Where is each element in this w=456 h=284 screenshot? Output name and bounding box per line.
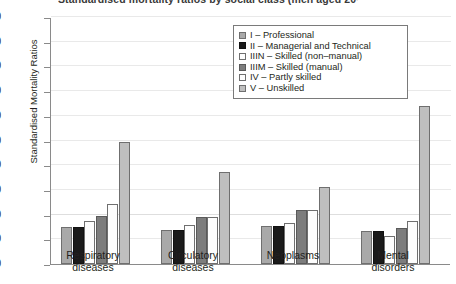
y-tick-label: 450 <box>0 36 1 47</box>
legend-swatch-icon <box>239 74 246 81</box>
legend-swatch-icon <box>239 85 246 92</box>
legend-swatch-icon <box>239 32 246 39</box>
legend-swatch-icon <box>239 42 246 49</box>
y-tick-label: 50 <box>0 233 1 244</box>
legend-item[interactable]: I – Professional <box>239 30 402 41</box>
y-tick-label: 150 <box>0 184 1 195</box>
legend-item[interactable]: V – Unskilled <box>239 83 402 94</box>
chart-container: Standardised mortality ratios by social … <box>0 0 456 284</box>
legend-label: IIIN – Skilled (non–manual) <box>250 51 362 62</box>
y-tick-label: 100 <box>0 209 1 220</box>
y-tick-label: 350 <box>0 85 1 96</box>
x-axis-category-label: Mentaldisorders <box>333 250 453 273</box>
y-tick-label: 200 <box>0 159 1 170</box>
legend-item[interactable]: II – Managerial and Technical <box>239 41 402 52</box>
legend-item[interactable]: IV – Partly skilled <box>239 72 402 83</box>
legend-label: II – Managerial and Technical <box>250 41 371 52</box>
y-tick-label: 0 <box>0 258 1 269</box>
x-label-line: disorders <box>333 262 453 274</box>
x-label-line: Mental <box>333 250 453 262</box>
chart-legend: I – ProfessionalII – Managerial and Tech… <box>233 25 408 99</box>
legend-label: V – Unskilled <box>250 83 304 94</box>
chart-title: Standardised mortality ratios by social … <box>58 0 358 5</box>
legend-swatch-icon <box>239 53 246 60</box>
y-tick-label: 400 <box>0 60 1 71</box>
y-tick-label: 300 <box>0 110 1 121</box>
bar <box>419 106 430 264</box>
x-label-line: diseases <box>133 262 253 274</box>
bar-group <box>161 17 241 264</box>
legend-label: I – Professional <box>250 30 314 41</box>
legend-item[interactable]: IIIN – Skilled (non–manual) <box>239 51 402 62</box>
legend-swatch-icon <box>239 64 246 71</box>
legend-item[interactable]: IIIM – Skilled (manual) <box>239 62 402 73</box>
y-tick-label: 250 <box>0 135 1 146</box>
y-tick-label: 500 <box>0 11 1 22</box>
legend-label: IIIM – Skilled (manual) <box>250 62 342 73</box>
bar <box>119 142 130 264</box>
legend-label: IV – Partly skilled <box>250 72 321 83</box>
bar-group <box>61 17 141 264</box>
y-axis-title: Standardised Mortality Ratios <box>28 7 39 197</box>
